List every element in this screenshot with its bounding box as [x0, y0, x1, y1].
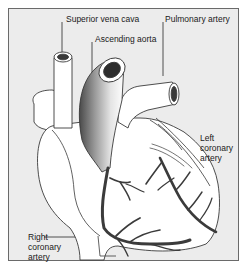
label-right-coronary-artery: Right coronary artery — [28, 232, 61, 262]
ventricles — [38, 118, 220, 260]
label-left-coronary-artery: Left coronary artery — [200, 133, 233, 163]
svc-lumen — [58, 54, 69, 60]
pa-lumen — [171, 87, 177, 102]
heart-body — [33, 52, 220, 260]
label-superior-vena-cava: Superior vena cava — [66, 14, 139, 24]
label-ascending-aorta: Ascending aorta — [95, 34, 156, 44]
superior-vena-cava — [54, 58, 72, 128]
label-pulmonary-artery: Pulmonary artery — [165, 14, 230, 24]
